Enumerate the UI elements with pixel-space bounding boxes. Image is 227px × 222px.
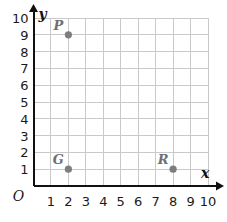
origin-label: O (13, 189, 24, 203)
x-axis-arrowhead (216, 182, 224, 191)
x-tick-1: 1 (47, 195, 55, 208)
y-tick-10: 10 (12, 12, 29, 25)
x-tick-5: 5 (117, 195, 125, 208)
y-axis-arrowhead (29, 4, 38, 12)
x-tick-4: 4 (99, 195, 107, 208)
data-point (170, 166, 177, 173)
y-tick-9: 9 (20, 28, 28, 41)
x-axis-label: x (201, 166, 209, 180)
data-point (65, 166, 72, 173)
point-label-p: P (54, 18, 64, 31)
y-tick-4: 4 (20, 112, 28, 125)
y-tick-5: 5 (20, 96, 28, 109)
y-axis-label: y (39, 7, 47, 21)
coordinate-plane: 12345678910 12345678910 PGR x y O (0, 0, 227, 222)
x-tick-2: 2 (64, 195, 72, 208)
x-tick-8: 8 (169, 195, 177, 208)
y-tick-3: 3 (20, 129, 28, 142)
point-label-g: G (53, 153, 64, 166)
y-tick-6: 6 (20, 79, 28, 92)
y-tick-8: 8 (20, 45, 28, 58)
x-tick-3: 3 (82, 195, 90, 208)
y-tick-2: 2 (20, 146, 28, 159)
x-tick-6: 6 (134, 195, 142, 208)
y-tick-7: 7 (20, 62, 28, 75)
grid-and-axes (0, 0, 227, 222)
point-label-r: R (158, 153, 169, 166)
x-tick-9: 9 (186, 195, 194, 208)
y-tick-1: 1 (20, 163, 28, 176)
x-tick-7: 7 (152, 195, 160, 208)
data-point (65, 31, 72, 38)
x-tick-10: 10 (200, 195, 217, 208)
